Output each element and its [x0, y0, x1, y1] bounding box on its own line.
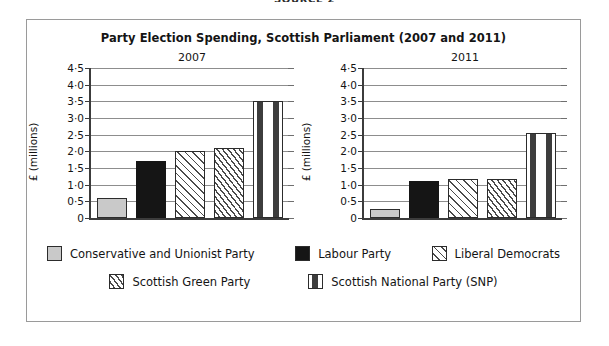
y-tick-label: 1·5 — [323, 162, 357, 174]
y-axis-caption-2007: £ (millions) — [27, 107, 39, 197]
bar-2011-labour — [409, 181, 439, 218]
panel-title-2011: 2011 — [360, 51, 570, 64]
legend-label-labour: Labour Party — [318, 247, 391, 261]
x-axis-line-2011 — [362, 218, 562, 220]
y-tick-label: 0 — [50, 212, 84, 224]
legend-swatch-labour-icon — [295, 246, 310, 261]
bar-2011-conservative — [370, 209, 400, 218]
legend-item-conservative: Conservative and Unionist Party — [47, 246, 255, 261]
y-tick-label: 0 — [323, 212, 357, 224]
y-tick-label: 3·5 — [323, 95, 357, 107]
y-tick-label: 4·0 — [50, 79, 84, 91]
x-axis-line-2007 — [89, 218, 289, 220]
legend-label-libdem: Liberal Democrats — [455, 247, 560, 261]
legend-item-green: Scottish Green Party — [109, 274, 250, 289]
legend-swatch-green-icon — [109, 274, 124, 289]
bars-2007 — [91, 68, 289, 218]
y-tick-label: 2·0 — [323, 145, 357, 157]
y-tick-label: 0·5 — [323, 195, 357, 207]
y-tick-label: 2·5 — [50, 129, 84, 141]
y-axis-caption-2011: £ (millions) — [300, 107, 312, 197]
bar-2007-conservative — [97, 198, 127, 218]
y-tick-label: 2·5 — [323, 129, 357, 141]
legend-item-snp: Scottish National Party (SNP) — [308, 274, 497, 289]
panel-2011: 2011 £ (millions) 00·51·01·52·02·53·03·5… — [308, 51, 570, 236]
y-tick-label: 3·5 — [50, 95, 84, 107]
bar-2007-snp — [253, 101, 283, 218]
source-caption: SOURCE 2 — [0, 0, 609, 2]
chart-panels: 2007 £ (millions) 00·51·01·52·02·53·03·5… — [27, 51, 580, 236]
bar-2007-green — [214, 148, 244, 218]
bar-2011-green — [487, 179, 517, 218]
legend-label-green: Scottish Green Party — [132, 275, 250, 289]
legend-row-2: Scottish Green Party Scottish National P… — [41, 274, 566, 289]
bars-2011 — [364, 68, 562, 218]
panel-2007: 2007 £ (millions) 00·51·01·52·02·53·03·5… — [35, 51, 297, 236]
y-tick-label: 2·0 — [50, 145, 84, 157]
bar-2011-libdem — [448, 179, 478, 218]
bar-2007-libdem — [175, 151, 205, 218]
plot-area-2011: 00·51·01·52·02·53·03·54·04·5 — [362, 68, 562, 220]
legend-swatch-conservative-icon — [47, 246, 62, 261]
figure-title: Party Election Spending, Scottish Parlia… — [27, 31, 580, 45]
legend-swatch-snp-icon — [308, 274, 323, 289]
y-tick-label: 4·0 — [323, 79, 357, 91]
legend-item-labour: Labour Party — [295, 246, 391, 261]
y-tick-label: 3·0 — [50, 112, 84, 124]
legend: Conservative and Unionist Party Labour P… — [27, 246, 580, 289]
legend-label-conservative: Conservative and Unionist Party — [70, 247, 255, 261]
y-tick-label: 3·0 — [323, 112, 357, 124]
plot-area-2007: 00·51·01·52·02·53·03·54·04·5 — [89, 68, 289, 220]
legend-item-libdem: Liberal Democrats — [432, 246, 560, 261]
y-tick-label: 1·5 — [50, 162, 84, 174]
figure-frame: Party Election Spending, Scottish Parlia… — [26, 19, 581, 322]
legend-label-snp: Scottish National Party (SNP) — [331, 275, 497, 289]
legend-swatch-libdem-icon — [432, 246, 447, 261]
y-tick-label: 0·5 — [50, 195, 84, 207]
legend-row-1: Conservative and Unionist Party Labour P… — [41, 246, 566, 261]
y-tick-label: 1·0 — [323, 179, 357, 191]
bar-2007-labour — [136, 161, 166, 218]
y-tick-label: 4·5 — [323, 62, 357, 74]
bar-2011-snp — [526, 133, 556, 218]
y-tick-label: 4·5 — [50, 62, 84, 74]
y-tick-label: 1·0 — [50, 179, 84, 191]
panel-title-2007: 2007 — [87, 51, 297, 64]
